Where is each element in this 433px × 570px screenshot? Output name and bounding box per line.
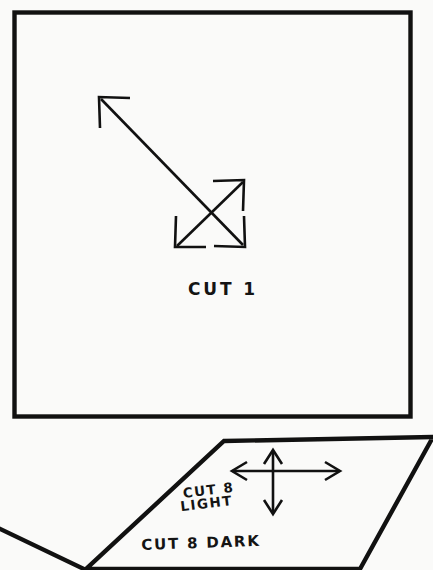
label-cut-1: CUT 1 xyxy=(188,281,258,299)
diagonal-cross-arrow-cut-1 xyxy=(99,97,245,247)
piece-outline-neighbor-left xyxy=(0,527,86,570)
label-cut-8-light: CUT 8 LIGHT xyxy=(182,480,237,513)
orthogonal-cross-arrow-cut-8 xyxy=(232,450,340,514)
arrow-shaft-nw-se xyxy=(101,99,243,245)
pattern-sheet: CUT 1 CUT 8 LIGHT CUT 8 DARK xyxy=(0,0,433,570)
